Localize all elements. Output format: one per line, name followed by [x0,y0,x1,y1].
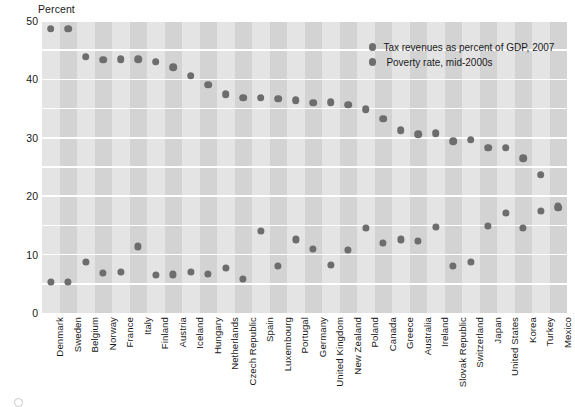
x-axis-tick-labels: DenmarkSwedenBelgiumNorwayFranceItalyFin… [42,313,567,407]
data-point [467,259,474,266]
data-point [99,56,107,64]
data-point [537,207,544,214]
x-axis-tick-label: Finland [159,317,170,349]
x-axis-tick-label: Mexico [562,317,573,348]
y-axis-tick-label: 50 [2,15,38,27]
data-point [257,227,264,234]
x-axis-tick-label: Netherlands [229,317,240,370]
data-point [134,55,142,63]
page-footer-mark-icon [14,398,23,407]
data-point [362,105,370,113]
legend-label-tax-revenues: Tax revenues as percent of GDP, 2007 [383,42,554,53]
x-axis-tick-label: Belgium [89,317,100,352]
x-axis-tick-label: Czech Republic [247,317,258,386]
x-axis-tick-label: United Kingdom [334,317,345,387]
x-axis-tick-label: Austria [177,317,188,348]
x-axis-tick-label: Hungary [212,317,223,354]
x-axis-tick-label: Luxembourg [282,317,293,371]
data-point [204,81,212,89]
chart-legend: Tax revenues as percent of GDP, 2007 Pov… [369,40,569,70]
data-point [379,115,387,123]
data-point [187,72,195,80]
data-point [274,95,282,103]
data-point [152,271,159,278]
y-axis-tick-label: 30 [2,132,38,144]
data-point [432,223,439,230]
x-axis-tick-label: Iceland [194,317,205,349]
x-axis-tick-label: Ireland [439,317,450,347]
data-point [152,58,160,66]
x-axis-tick-label: Japan [492,317,503,344]
x-axis-tick-label: New Zealand [352,317,363,375]
x-axis-tick-label: Korea [527,317,538,343]
data-point [502,144,510,152]
gridline [42,108,567,110]
data-point [484,144,492,152]
x-axis-tick-label: Slovak Republic [457,317,468,387]
legend-label-poverty-rate: Poverty rate, mid-2000s [383,57,492,68]
data-point [117,55,125,63]
data-point [169,63,177,71]
data-point [47,25,55,33]
data-point [117,268,124,275]
legend-marker-icon [369,58,376,65]
data-point [239,94,247,102]
data-point [397,236,404,243]
data-point [292,97,300,105]
data-point [64,25,72,33]
data-point [257,94,265,102]
x-axis-tick-label: Spain [264,317,275,342]
legend-item-poverty-rate: Poverty rate, mid-2000s [369,55,569,69]
y-axis-tick-labels: 01020304050 [0,0,38,407]
x-axis-tick-label: Australia [422,317,433,355]
x-axis-tick-label: Canada [387,317,398,351]
data-point [449,138,457,146]
x-axis-tick-label: Denmark [54,317,65,357]
x-axis-tick-label: United States [509,317,520,376]
data-point [309,99,317,107]
x-axis-tick-label: Turkey [544,317,555,347]
x-axis-tick-label: Poland [369,317,380,347]
y-axis-tick-label: 40 [2,73,38,85]
gridline [42,195,567,197]
gridline [42,21,567,22]
data-point [344,101,352,109]
gridline [42,137,567,139]
data-point [537,171,545,179]
data-point [327,98,335,106]
gridline [42,254,567,256]
data-point [82,258,89,265]
data-point [82,53,90,61]
y-axis-title: Percent [38,3,75,15]
gridline [42,166,567,168]
data-point [502,210,509,217]
scatter-chart: Percent 01020304050 DenmarkSwedenBelgium… [0,0,575,407]
data-point [292,236,299,243]
y-axis-tick-label: 0 [2,307,38,319]
legend-marker-icon [369,43,376,50]
data-point [187,268,194,275]
x-axis-tick-label: Norway [107,317,118,350]
y-axis-tick-label: 10 [2,249,38,261]
x-axis-tick-label: Italy [142,317,153,335]
x-axis-tick-label: Germany [317,317,328,357]
data-point [362,224,369,231]
data-point [222,264,229,271]
x-axis-tick-label: Sweden [72,317,83,352]
data-point [519,154,527,162]
gridline [42,79,567,81]
x-axis-tick-label: Portugal [299,317,310,354]
data-point [467,136,475,144]
data-point [222,90,230,98]
legend-item-tax-revenues: Tax revenues as percent of GDP, 2007 [369,40,569,54]
x-axis-tick-label: Switzerland [474,317,485,368]
data-point [397,126,405,134]
gridline [42,283,567,285]
data-point [327,261,334,268]
x-axis-tick-label: France [124,317,135,347]
data-point [432,129,440,137]
data-point [414,130,422,138]
x-axis-tick-label: Greece [404,317,415,349]
y-axis-tick-label: 20 [2,190,38,202]
